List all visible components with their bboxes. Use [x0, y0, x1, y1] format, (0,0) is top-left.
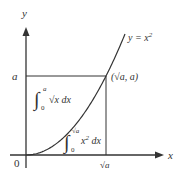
integral-sign: ∫	[62, 131, 71, 155]
x-axis-label: x	[167, 149, 173, 161]
integrand: x2 dx	[80, 134, 101, 146]
integral-sign: ∫	[32, 88, 41, 112]
x-axis-arrow	[155, 152, 164, 159]
integral-lower-limit: 0	[71, 146, 75, 154]
point-label: (√a, a)	[111, 71, 139, 83]
integrand: √x dx	[49, 94, 71, 105]
integral-sqrt-x: ∫ a 0 √x dx	[32, 85, 71, 112]
y-axis-label: y	[21, 7, 27, 19]
y-tick-a: a	[12, 70, 18, 82]
parabola-curve	[26, 34, 125, 155]
x-tick-sqrt-a: √a	[100, 160, 110, 170]
integral-x-squared: ∫ √a 0 x2 dx	[62, 127, 101, 155]
integral-lower-limit: 0	[41, 104, 45, 112]
curve-label: y = x2	[127, 31, 153, 43]
y-axis-arrow	[23, 27, 30, 36]
diagram: y x 0 a √a y = x2 (√a, a) ∫ a 0 √x dx ∫ …	[0, 0, 179, 179]
integral-upper-limit: √a	[72, 127, 80, 135]
integral-upper-limit: a	[43, 85, 47, 93]
origin-label: 0	[14, 157, 20, 169]
